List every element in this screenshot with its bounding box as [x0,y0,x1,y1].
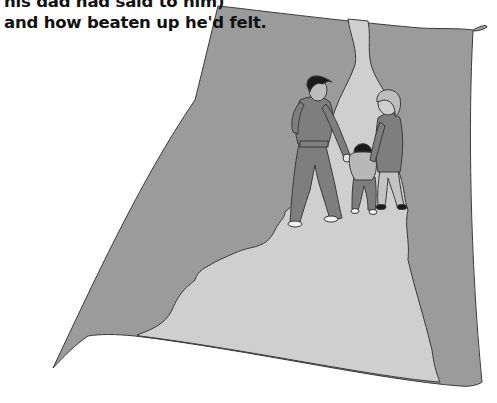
illustration [0,0,497,403]
caption-line-2: and how beaten up he'd felt. [4,12,267,33]
story-caption: his dad had said to him) and how beaten … [4,0,267,33]
woman-shoe-left [376,205,386,210]
woman-shoe-right [397,205,407,210]
man-belt [300,141,328,147]
child-shoe-right [369,210,377,215]
man-shoe-right [324,216,338,222]
caption-line-1: his dad had said to him) [4,0,267,12]
man-shoe-left [288,221,302,227]
child-shoe-left [351,209,359,214]
